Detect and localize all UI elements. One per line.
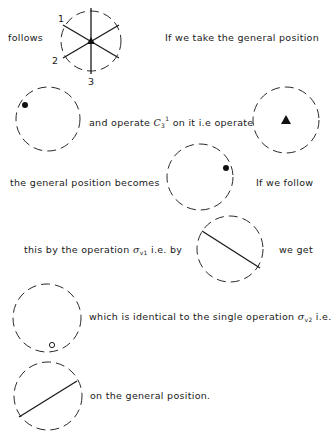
general-position-dot-icon <box>22 102 28 108</box>
text-and-operate-pre: and operate <box>89 117 154 128</box>
moved-position-dot-icon <box>223 165 229 171</box>
sigma-v2-subscript: v2 <box>305 316 313 323</box>
sigma-v1-symbol: σ <box>133 244 140 255</box>
text-which-is-post: i.e. <box>313 311 332 322</box>
text-and-operate: and operate C31 on it i.e operate <box>89 116 254 129</box>
text-on-general-position: on the general position. <box>90 391 210 401</box>
sigma-v2-symbol: σ <box>298 311 305 322</box>
after-c3-circle <box>167 144 233 210</box>
text-which-is-pre: which is identical to the single operati… <box>89 311 298 322</box>
result-position-open-dot-icon <box>49 342 54 347</box>
sigma-v1-subscript: v1 <box>140 249 148 256</box>
text-follows: follows <box>8 33 43 43</box>
result-position-circle <box>13 284 81 352</box>
text-this-by-operation: this by the operation σv1 i.e. by <box>24 245 182 256</box>
text-take-general-position: If we take the general position <box>165 33 319 43</box>
text-and-operate-post: on it i.e operate <box>169 117 253 128</box>
text-which-is-identical: which is identical to the single operati… <box>89 312 332 323</box>
axis-label-2: 2 <box>52 56 58 66</box>
axis-label-3: 3 <box>88 77 94 87</box>
text-position-becomes: the general position becomes <box>10 178 160 188</box>
axis-label-1: 1 <box>58 14 64 24</box>
text-if-we-follow: If we follow <box>256 178 313 188</box>
start-position-circle <box>16 87 80 151</box>
sigma-v1-mirror-line <box>202 231 260 268</box>
text-we-get: we get <box>279 245 313 255</box>
c3-triangle-icon <box>281 115 291 124</box>
c3-subscript: 3 <box>161 122 165 129</box>
sigma-v2-mirror-line <box>19 381 77 417</box>
sigma-v2-circle <box>14 362 82 430</box>
c3-symbol: C <box>154 117 162 128</box>
text-this-by-pre: this by the operation <box>24 244 133 255</box>
text-this-by-post: i.e. by <box>148 244 183 255</box>
